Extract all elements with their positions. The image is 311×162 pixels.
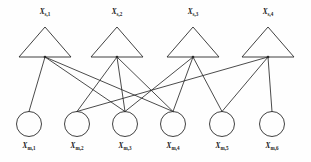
factor-node-label-subscript-1: s,1 — [45, 11, 51, 17]
edge-s1-m1 — [29, 57, 45, 112]
edges-layer — [29, 57, 272, 112]
variable-node-circle-2 — [65, 112, 90, 137]
edge-s2-m3 — [117, 57, 125, 112]
variable-node-label-subscript-4: m,4 — [171, 145, 179, 151]
variable-node-circle-5 — [210, 112, 235, 137]
factor-node-triangle-2 — [91, 27, 143, 57]
variable-node-label-4: Xm,4 — [167, 143, 180, 150]
variable-node-label-5: Xm,5 — [216, 143, 229, 150]
factor-node-triangle-1 — [19, 27, 71, 57]
variable-node-label-3: Xm,3 — [119, 143, 132, 150]
connection-ports-layer — [44, 56, 270, 59]
variable-node-label-subscript-1: m,1 — [27, 145, 35, 151]
factor-node-label-subscript-3: s,3 — [193, 11, 199, 17]
factor-node-label-4: Xs,4 — [263, 9, 274, 16]
factor-node-label-subscript-4: s,4 — [268, 11, 274, 17]
variable-node-label-subscript-3: m,3 — [123, 145, 131, 151]
variable-node-circle-4 — [161, 112, 186, 137]
variable-node-label-1: Xm,1 — [23, 143, 36, 150]
variable-node-label-6: Xm,6 — [266, 143, 279, 150]
edge-s2-m2 — [77, 57, 117, 112]
factor-node-label-2: Xs,2 — [112, 9, 123, 16]
factor-node-port-4 — [267, 56, 270, 59]
edge-s4-m2 — [77, 57, 268, 112]
variable-node-circle-6 — [260, 112, 285, 137]
factor-graph-diagram: Xs,1Xs,2Xs,3Xs,4Xm,1Xm,2Xm,3Xm,4Xm,5Xm,6 — [0, 0, 311, 162]
edge-s3-m5 — [193, 57, 222, 112]
factor-node-label-subscript-2: s,2 — [117, 11, 123, 17]
variable-nodes-layer — [17, 112, 285, 137]
factor-node-triangle-3 — [167, 27, 219, 57]
factor-node-triangle-4 — [242, 27, 294, 57]
variable-node-label-subscript-5: m,5 — [220, 145, 228, 151]
factor-node-label-3: Xs,3 — [188, 9, 199, 16]
factor-node-label-1: Xs,1 — [40, 9, 51, 16]
variable-node-circle-1 — [17, 112, 42, 137]
factor-node-port-1 — [44, 56, 47, 59]
factor-node-port-3 — [192, 56, 195, 59]
variable-node-circle-3 — [113, 112, 138, 137]
edge-s2-m4 — [117, 57, 173, 112]
edge-s1-m4 — [45, 57, 173, 112]
edge-s4-m5 — [222, 57, 268, 112]
factor-node-port-2 — [116, 56, 119, 59]
factor-graph-canvas — [0, 0, 311, 162]
variable-node-label-2: Xm,2 — [71, 143, 84, 150]
edge-s4-m6 — [268, 57, 272, 112]
variable-node-label-subscript-6: m,6 — [270, 145, 278, 151]
edge-s1-m3 — [45, 57, 125, 112]
variable-node-label-subscript-2: m,2 — [75, 145, 83, 151]
factor-nodes-layer — [19, 27, 294, 57]
